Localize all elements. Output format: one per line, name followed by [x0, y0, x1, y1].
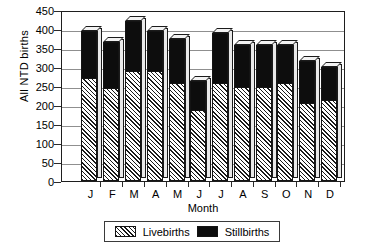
chart-legend: Livebirths Stillbirths	[104, 221, 280, 242]
y-tick-label: 250	[36, 82, 54, 92]
x-tick-mark	[122, 182, 123, 187]
y-tick-mark	[54, 163, 61, 164]
bar-group	[212, 10, 228, 181]
bar-group	[190, 10, 206, 181]
y-tick-label: 50	[42, 158, 54, 168]
bar-segment-livebirths	[299, 103, 315, 181]
bar-group	[234, 10, 250, 181]
bar-side-face	[163, 28, 168, 178]
bar-segment-stillbirths	[234, 45, 250, 86]
x-tick-mark	[318, 182, 319, 187]
plot-area	[61, 11, 345, 182]
x-tick-label: M	[166, 188, 190, 200]
y-tick-mark	[54, 49, 61, 50]
bar-side-face	[293, 42, 298, 178]
bar-side-face	[185, 36, 190, 179]
bar-side-face	[97, 28, 102, 178]
bar-segment-stillbirths	[299, 61, 315, 103]
y-tick-mark	[54, 144, 61, 145]
bar-series-group	[62, 12, 344, 181]
y-tick-mark	[54, 182, 61, 183]
x-tick-mark	[188, 182, 189, 187]
y-tick-mark	[54, 106, 61, 107]
x-tick-mark	[340, 182, 341, 187]
x-tick-mark	[231, 182, 232, 187]
y-tick-label: 200	[36, 101, 54, 111]
bar-segment-livebirths	[277, 83, 293, 181]
x-tick-label: O	[274, 188, 298, 200]
x-tick-label: J	[187, 188, 211, 200]
x-tick-mark	[296, 182, 297, 187]
bar-segment-stillbirths	[190, 81, 206, 109]
bar-side-face	[272, 42, 277, 178]
y-tick-label: 400	[36, 25, 54, 35]
x-tick-label: F	[100, 188, 124, 200]
bar-segment-livebirths	[103, 88, 119, 181]
legend-swatch-livebirths	[115, 226, 136, 237]
x-tick-label: N	[296, 188, 320, 200]
x-axis-tick-labels: JFMAMJJASOND	[61, 188, 345, 202]
bar-side-face	[228, 30, 233, 178]
bar-segment-stillbirths	[103, 42, 119, 88]
legend-label-stillbirths: Stillbirths	[225, 226, 270, 238]
x-axis-title: Month	[61, 202, 345, 214]
bar-segment-livebirths	[147, 71, 163, 181]
bar-segment-stillbirths	[169, 39, 185, 84]
x-tick-label: A	[144, 188, 168, 200]
bar-segment-stillbirths	[147, 31, 163, 71]
x-tick-mark	[275, 182, 276, 187]
x-tick-mark	[166, 182, 167, 187]
bar-side-face	[337, 64, 342, 178]
bar-segment-livebirths	[212, 83, 228, 181]
y-tick-label: 150	[36, 120, 54, 130]
bar-side-face	[315, 58, 320, 178]
x-tick-label: M	[122, 188, 146, 200]
bar-side-face	[119, 39, 124, 178]
bar-side-face	[250, 42, 255, 178]
y-tick-label: 450	[36, 6, 54, 16]
x-tick-mark	[209, 182, 210, 187]
bar-group	[125, 10, 141, 181]
x-tick-label: A	[231, 188, 255, 200]
x-tick-mark	[144, 182, 145, 187]
bar-segment-livebirths	[256, 87, 272, 181]
y-tick-mark	[54, 87, 61, 88]
bar-segment-livebirths	[81, 78, 97, 181]
legend-label-livebirths: Livebirths	[143, 226, 190, 238]
y-tick-label: 350	[36, 44, 54, 54]
bar-segment-stillbirths	[81, 31, 97, 78]
bar-group	[277, 10, 293, 181]
bar-segment-livebirths	[234, 87, 250, 181]
chart-figure: All NTD births 4504003503002502001501005…	[0, 0, 376, 251]
bar-segment-stillbirths	[212, 33, 228, 83]
bar-segment-livebirths	[169, 83, 185, 181]
bar-group	[81, 10, 97, 181]
bar-segment-stillbirths	[256, 45, 272, 86]
bar-segment-livebirths	[125, 71, 141, 181]
bar-segment-livebirths	[190, 110, 206, 181]
y-tick-label: 100	[36, 139, 54, 149]
y-tick-mark	[54, 125, 61, 126]
x-tick-label: S	[253, 188, 277, 200]
x-tick-label: D	[318, 188, 342, 200]
bar-segment-stillbirths	[321, 67, 337, 100]
x-tick-mark	[100, 182, 101, 187]
bar-group	[321, 10, 337, 181]
y-axis-tick-labels: 450400350300250200150100500	[14, 0, 54, 195]
x-tick-label: J	[209, 188, 233, 200]
bar-segment-stillbirths	[277, 45, 293, 83]
bar-group	[299, 10, 315, 181]
bar-group	[103, 10, 119, 181]
bar-group	[256, 10, 272, 181]
y-tick-mark	[54, 68, 61, 69]
bar-segment-stillbirths	[125, 21, 141, 70]
y-tick-mark	[54, 11, 61, 12]
bar-side-face	[141, 18, 146, 178]
bar-group	[169, 10, 185, 181]
y-tick-label: 300	[36, 63, 54, 73]
bar-segment-livebirths	[321, 100, 337, 181]
bar-group	[147, 10, 163, 181]
legend-swatch-stillbirths	[197, 226, 218, 237]
y-tick-mark	[54, 30, 61, 31]
x-tick-label: J	[78, 188, 102, 200]
